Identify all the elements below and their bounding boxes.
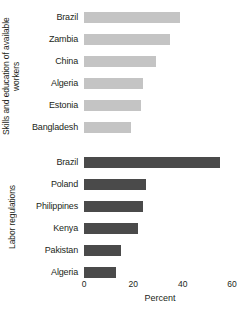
bar bbox=[84, 122, 131, 133]
bar-row: Poland bbox=[0, 177, 238, 199]
bar-row: Bangladesh bbox=[0, 120, 238, 142]
bar-track bbox=[84, 78, 236, 89]
bar-track bbox=[84, 179, 236, 190]
bar-row-label: Philippines bbox=[0, 199, 78, 213]
bar-row: Estonia bbox=[0, 98, 238, 120]
bar-row: Brazil bbox=[0, 155, 238, 177]
bar bbox=[84, 245, 121, 256]
bar-row-label: Poland bbox=[0, 177, 78, 191]
bar bbox=[84, 179, 146, 190]
bar bbox=[84, 56, 156, 67]
bar-row-label: Zambia bbox=[0, 32, 78, 46]
bar-row: Kenya bbox=[0, 221, 238, 243]
x-axis-tick-label: 40 bbox=[178, 279, 187, 289]
bar-row-label: Algeria bbox=[0, 76, 78, 90]
bar bbox=[84, 157, 220, 168]
bar-row-label: Brazil bbox=[0, 155, 78, 169]
bar-row-label: China bbox=[0, 54, 78, 68]
bar-chart: Skills and education of available worker… bbox=[0, 0, 238, 317]
bar-track bbox=[84, 245, 236, 256]
bar-track bbox=[84, 12, 236, 23]
bar-track bbox=[84, 122, 236, 133]
bar-row-label: Estonia bbox=[0, 98, 78, 112]
x-axis-tick-label: 0 bbox=[82, 279, 87, 289]
bar-row: Philippines bbox=[0, 199, 238, 221]
bar-track bbox=[84, 100, 236, 111]
bar-row: China bbox=[0, 54, 238, 76]
bar bbox=[84, 267, 116, 278]
bar-row: Zambia bbox=[0, 32, 238, 54]
x-axis: Percent 0204060 bbox=[0, 279, 238, 317]
skills-group-plot: BrazilZambiaChinaAlgeriaEstoniaBanglades… bbox=[0, 10, 238, 150]
bar-row: Pakistan bbox=[0, 243, 238, 265]
bar-row: Algeria bbox=[0, 76, 238, 98]
labor-group-plot: BrazilPolandPhilippinesKenyaPakistanAlge… bbox=[0, 155, 238, 280]
bar-row-label: Bangladesh bbox=[0, 120, 78, 134]
bar-track bbox=[84, 34, 236, 45]
bar bbox=[84, 78, 143, 89]
bar-row: Brazil bbox=[0, 10, 238, 32]
bar bbox=[84, 12, 180, 23]
x-axis-tick-label: 60 bbox=[227, 279, 236, 289]
bar-row-label: Brazil bbox=[0, 10, 78, 24]
x-axis-title: Percent bbox=[84, 293, 236, 304]
bar-track bbox=[84, 267, 236, 278]
x-axis-tick-label: 20 bbox=[129, 279, 138, 289]
bar-track bbox=[84, 201, 236, 212]
bar bbox=[84, 100, 141, 111]
bar bbox=[84, 34, 170, 45]
bar-track bbox=[84, 223, 236, 234]
bar-track bbox=[84, 157, 236, 168]
bar-row-label: Pakistan bbox=[0, 243, 78, 257]
bar bbox=[84, 201, 143, 212]
bar-row-label: Kenya bbox=[0, 221, 78, 235]
bar bbox=[84, 223, 138, 234]
bar-track bbox=[84, 56, 236, 67]
bar-row-label: Algeria bbox=[0, 265, 78, 279]
